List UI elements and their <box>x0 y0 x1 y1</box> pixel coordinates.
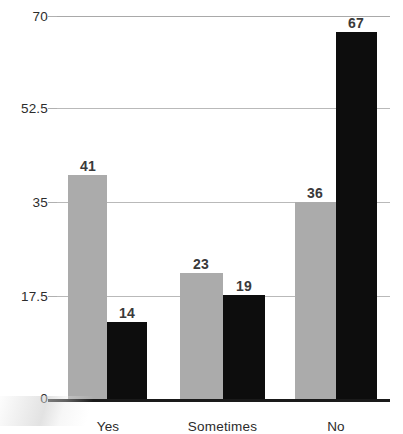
tick-70 <box>48 16 57 17</box>
y-axis-label-70: 70 <box>2 10 48 24</box>
y-axis-label-0: 0 <box>2 392 48 406</box>
bar-label-sometimes-series2: 19 <box>219 279 269 293</box>
bar-sometimes-series1[interactable] <box>180 273 223 399</box>
bar-label-sometimes-series1: 23 <box>176 257 226 271</box>
bar-yes-series1[interactable] <box>68 175 107 399</box>
bar-sometimes-series2[interactable] <box>223 295 265 399</box>
bar-yes-series2[interactable] <box>107 322 147 399</box>
bar-label-no-series1: 36 <box>290 186 340 200</box>
x-axis-line <box>57 399 390 402</box>
bar-no-series1[interactable] <box>295 202 336 399</box>
y-axis-label-52-5: 52.5 <box>2 102 48 116</box>
y-axis-label-35: 35 <box>2 196 48 210</box>
bar-no-series2[interactable] <box>336 32 377 399</box>
tick-35 <box>48 202 57 203</box>
bar-label-yes-series2: 14 <box>102 306 152 320</box>
x-axis-origin-stub <box>48 399 57 402</box>
tick-52-5 <box>48 108 57 109</box>
x-axis-label-no: No <box>291 420 381 434</box>
bar-label-no-series2: 67 <box>331 16 381 30</box>
plot-area: 41 14 23 19 36 67 Yes Sometimes No <box>57 16 390 399</box>
tick-17-5 <box>48 296 57 297</box>
bar-label-yes-series1: 41 <box>63 159 113 173</box>
x-axis-label-yes: Yes <box>63 420 153 434</box>
x-axis-label-sometimes: Sometimes <box>175 420 270 434</box>
y-axis-label-17-5: 17.5 <box>2 290 48 304</box>
